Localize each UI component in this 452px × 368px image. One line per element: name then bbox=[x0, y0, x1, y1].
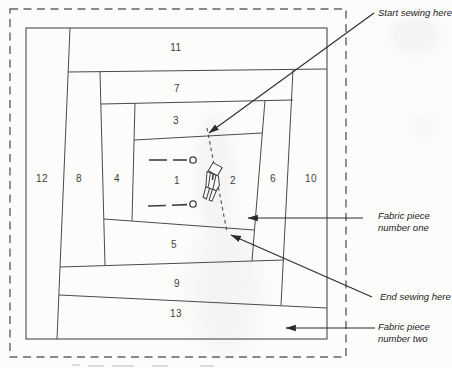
piece-boundary-lines bbox=[57, 28, 327, 339]
piece-label-11: 11 bbox=[170, 42, 181, 53]
start-sewing-arrow bbox=[209, 13, 374, 133]
piece8-right-edge bbox=[100, 72, 105, 266]
piece13-top-edge bbox=[59, 295, 327, 308]
pin-icon bbox=[149, 157, 196, 163]
piece12-right-edge bbox=[57, 28, 70, 339]
annotation-fabric-piece-one-line2: number one bbox=[378, 222, 430, 234]
annotation-fabric-piece-two-line1: Fabric piece bbox=[378, 321, 430, 333]
piece-label-5: 5 bbox=[171, 239, 177, 250]
cropped-caption-fragment bbox=[72, 365, 214, 366]
annotation-end-sewing: End sewing here bbox=[380, 291, 451, 303]
piece-label-1: 1 bbox=[174, 175, 180, 186]
piece9-top-edge bbox=[60, 260, 284, 267]
piece5-top-edge bbox=[104, 219, 254, 230]
piece-label-7: 7 bbox=[174, 83, 180, 94]
piece-label-3: 3 bbox=[173, 115, 179, 126]
piece11-bottom-edge bbox=[68, 69, 327, 72]
piece-label-2: 2 bbox=[230, 175, 236, 186]
piece-label-6: 6 bbox=[270, 173, 276, 184]
piece-label-4: 4 bbox=[114, 173, 120, 184]
end-sewing-arrow bbox=[231, 235, 372, 297]
pin-icon bbox=[148, 201, 196, 207]
piece3-bottom-edge bbox=[134, 133, 262, 140]
piece4-right-edge bbox=[132, 103, 135, 221]
piece-label-12: 12 bbox=[36, 173, 48, 184]
annotation-fabric-piece-two: Fabric piece number two bbox=[378, 321, 430, 344]
annotation-fabric-piece-two-line2: number two bbox=[378, 333, 430, 345]
piece10-left-edge bbox=[281, 70, 293, 305]
piece7-bottom-edge bbox=[101, 100, 293, 104]
annotation-fabric-piece-one-line1: Fabric piece bbox=[378, 210, 430, 222]
annotation-fabric-piece-one: Fabric piece number one bbox=[378, 210, 430, 233]
piece-label-10: 10 bbox=[305, 173, 317, 184]
piece-label-9: 9 bbox=[174, 278, 180, 289]
piece-label-13: 13 bbox=[170, 308, 182, 319]
piece6-left-edge bbox=[252, 100, 265, 261]
annotation-start-sewing: Start sewing here bbox=[378, 7, 452, 19]
piece-label-8: 8 bbox=[76, 173, 82, 184]
